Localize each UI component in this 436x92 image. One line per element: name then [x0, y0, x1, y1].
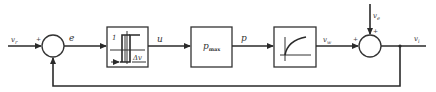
sum1-plus-sign: +: [36, 35, 41, 42]
relay-width-label: Δv: [132, 54, 142, 62]
power-label: p: [241, 33, 247, 43]
summing-junction-2: [359, 35, 381, 57]
control-label: u: [157, 34, 163, 44]
summing-junction-1: [42, 35, 64, 57]
sum2-top-plus-sign: +: [373, 27, 378, 34]
relay-block: 1 Δv: [107, 27, 148, 67]
disturbance-label: ve: [373, 12, 380, 21]
gain-block: pmax: [191, 27, 232, 67]
relay-level-label: 1: [112, 34, 116, 42]
process-block: [274, 27, 316, 67]
error-label: e: [69, 33, 74, 43]
output-label: vi: [414, 35, 420, 44]
block-diagram: vr + e 1 Δv u pmax p vw +: [0, 0, 436, 92]
reference-label: vr: [11, 36, 18, 45]
process-output-label: vw: [323, 36, 332, 45]
sum2-left-plus-sign: +: [353, 35, 358, 42]
